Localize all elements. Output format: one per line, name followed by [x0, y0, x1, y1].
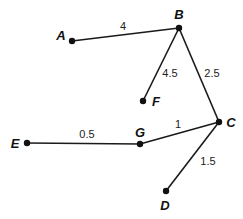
edge-weight-b-c: 2.5 [204, 67, 219, 79]
edge-weight-e-g: 0.5 [79, 128, 94, 140]
node-label-a: A [55, 28, 65, 43]
edges [27, 28, 219, 191]
nodes [24, 25, 222, 194]
node-b [176, 25, 182, 31]
node-label-c: C [226, 115, 236, 130]
node-label-f: F [152, 94, 161, 109]
node-d [163, 188, 169, 194]
edge-weight-g-c: 1 [175, 118, 181, 130]
node-label-g: G [135, 125, 145, 140]
node-f [140, 98, 146, 104]
edge-b-f [143, 28, 179, 101]
edge-weight-c-d: 1.5 [200, 155, 215, 167]
node-e [24, 140, 30, 146]
edge-weight-a-b: 4 [120, 20, 126, 32]
node-labels: ABFCGED [11, 7, 237, 213]
graph-diagram: 44.52.50.511.5 ABFCGED [0, 0, 243, 219]
edge-weight-b-f: 4.5 [162, 67, 177, 79]
node-c [216, 119, 222, 125]
node-label-d: D [160, 198, 170, 213]
edge-e-g [27, 143, 140, 144]
node-label-e: E [11, 136, 20, 151]
node-label-b: B [174, 7, 183, 22]
node-a [69, 38, 75, 44]
edge-weights: 44.52.50.511.5 [79, 20, 219, 167]
node-g [137, 141, 143, 147]
